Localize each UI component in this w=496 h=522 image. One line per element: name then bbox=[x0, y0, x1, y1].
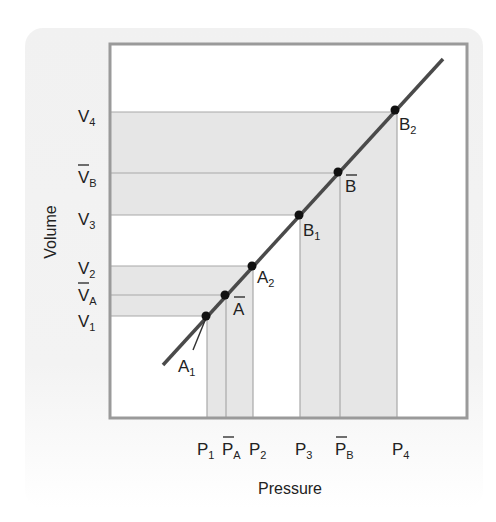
band-p1-p2 bbox=[207, 266, 253, 418]
y-label-v2: V2 bbox=[78, 259, 95, 280]
y-label-v4: V4 bbox=[78, 107, 95, 128]
svg-text:PA: PA bbox=[222, 440, 241, 461]
y-label-va-bar: VA bbox=[78, 283, 97, 307]
point-a2 bbox=[248, 262, 257, 271]
x-label-p1: P1 bbox=[197, 440, 214, 461]
y-label-v1: V1 bbox=[78, 312, 95, 333]
point-b-bar bbox=[334, 168, 343, 177]
svg-text:B: B bbox=[345, 177, 356, 196]
point-b1 bbox=[295, 211, 304, 220]
band-upper-fill bbox=[252, 112, 397, 215]
point-a1 bbox=[202, 312, 211, 321]
x-label-p4: P4 bbox=[392, 440, 409, 461]
point-a-bar bbox=[221, 291, 230, 300]
y-axis-title: Volume bbox=[42, 205, 59, 258]
label-b-bar: B bbox=[345, 175, 357, 196]
label-a-bar: A bbox=[233, 297, 245, 319]
svg-text:A: A bbox=[233, 300, 245, 319]
band-p3-p4 bbox=[300, 215, 397, 418]
x-label-pa-bar: PA bbox=[222, 437, 241, 461]
x-label-p2: P2 bbox=[249, 440, 266, 461]
svg-text:VB: VB bbox=[78, 168, 97, 189]
x-axis-title: Pressure bbox=[258, 480, 322, 497]
svg-text:PB: PB bbox=[335, 440, 354, 461]
pressure-volume-diagram: A1 A A2 B1 B B2 V4 VB V3 V2 VA V1 P1 PA bbox=[0, 0, 496, 522]
y-label-vb-bar: VB bbox=[78, 165, 97, 189]
y-label-v3: V3 bbox=[78, 210, 95, 231]
x-label-p3: P3 bbox=[295, 440, 312, 461]
svg-text:VA: VA bbox=[78, 286, 97, 307]
x-label-pb-bar: PB bbox=[335, 437, 354, 461]
x-axis-labels: P1 PA P2 P3 PB P4 bbox=[197, 437, 409, 461]
point-b2 bbox=[391, 106, 400, 115]
y-axis-labels: V4 VB V3 V2 VA V1 bbox=[78, 107, 97, 333]
